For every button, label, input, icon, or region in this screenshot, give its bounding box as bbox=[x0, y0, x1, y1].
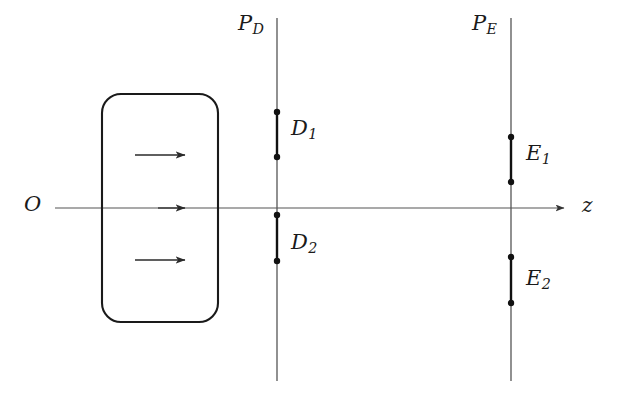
image-2-label: E2 bbox=[526, 268, 550, 289]
object-1-label: D1 bbox=[291, 118, 317, 139]
axis-label-text: z bbox=[582, 193, 593, 217]
image-2-label-prefix: E bbox=[526, 266, 541, 290]
origin-label-text: O bbox=[24, 192, 41, 216]
object-2-label: D2 bbox=[291, 232, 317, 253]
segment-d2-endpoint-bottom bbox=[274, 258, 280, 264]
origin-label: O bbox=[24, 194, 41, 215]
object-1-label-prefix: D bbox=[291, 116, 308, 140]
plane-e-label: PE bbox=[472, 13, 497, 34]
segment-d1-endpoint-bottom bbox=[274, 154, 280, 160]
object-1-label-sub: 1 bbox=[308, 126, 317, 142]
object-2-label-prefix: D bbox=[291, 230, 308, 254]
image-1-label-prefix: E bbox=[526, 141, 541, 165]
segment-e2-endpoint-top bbox=[508, 254, 514, 260]
optics-diagram-figure: O z PD PE D1 D2 E1 E2 bbox=[0, 0, 618, 417]
plane-e-label-sub: E bbox=[487, 21, 497, 37]
diagram-canvas bbox=[0, 0, 618, 417]
segment-e1-endpoint-bottom bbox=[508, 179, 514, 185]
object-2-label-sub: 2 bbox=[308, 240, 317, 256]
image-1-label: E1 bbox=[526, 143, 550, 164]
plane-e-label-prefix: P bbox=[472, 11, 486, 35]
plane-d-label-sub: D bbox=[253, 21, 264, 37]
image-2-label-sub: 2 bbox=[542, 276, 551, 292]
segment-e2-endpoint-bottom bbox=[508, 300, 514, 306]
segment-d1-endpoint-top bbox=[274, 109, 280, 115]
image-1-label-sub: 1 bbox=[542, 151, 551, 167]
plane-d-label: PD bbox=[238, 13, 264, 34]
axis-label: z bbox=[582, 195, 593, 215]
segment-d2-endpoint-top bbox=[274, 212, 280, 218]
plane-d-label-prefix: P bbox=[238, 11, 252, 35]
segment-e1-endpoint-top bbox=[508, 134, 514, 140]
